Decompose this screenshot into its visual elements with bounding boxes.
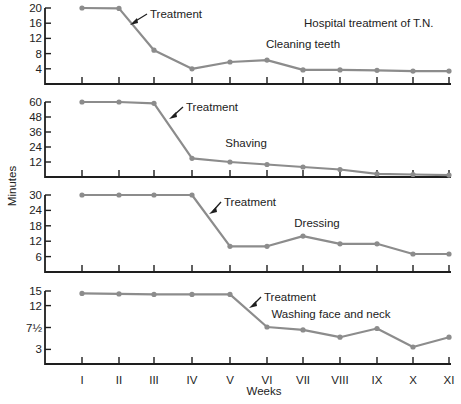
data-point [446,251,451,256]
data-point [374,68,379,73]
x-tick-label: VIII [331,374,348,386]
y-tick-label: 8 [36,48,42,60]
y-tick-label: 36 [29,126,42,138]
data-point [151,101,156,106]
data-point [374,171,379,176]
data-point [337,67,342,72]
treatment-annotation: Treatment [186,101,239,113]
data-point [410,344,415,349]
x-tick-label: II [116,374,122,386]
panel-1: 48121620Cleaning teethTreatmentHospital … [29,2,451,84]
small-multiples-line-chart: 48121620Cleaning teethTreatmentHospital … [0,0,461,404]
y-tick-label: 12 [29,32,42,44]
y-tick-label: 16 [29,17,42,29]
data-point [189,66,194,71]
treatment-annotation: Treatment [224,196,277,208]
data-point [227,159,232,164]
data-point [79,5,84,10]
panel-2: 1224364860ShavingTreatment [29,96,451,178]
arrowhead-icon [249,301,257,308]
x-tick-label: VII [296,374,310,386]
x-tick-label: XI [444,374,455,386]
x-tick-label: III [149,374,159,386]
x-tick-label: X [409,374,417,386]
y-tick-label: 60 [29,96,42,108]
data-point [264,324,269,329]
data-point [227,59,232,64]
data-point [446,69,451,74]
data-point [189,292,194,297]
axis-lines [45,291,451,364]
data-point [337,241,342,246]
y-tick-label: 30 [29,189,42,201]
y-tick-label: 24 [29,141,42,153]
series-label: Dressing [294,217,339,229]
x-tick-label: V [226,374,234,386]
data-point [79,99,84,104]
series-label: Washing face and neck [271,308,390,320]
y-tick-label: 12 [29,235,42,247]
y-tick-label: 12 [29,156,42,168]
y-tick-label: 7½ [26,322,42,334]
data-point [300,164,305,169]
y-tick-label: 3 [36,343,42,355]
data-point [337,335,342,340]
data-point [116,192,121,197]
panel-3: 612182430DressingTreatment [29,189,451,272]
data-point [300,327,305,332]
data-point [410,172,415,177]
y-tick-label: 4 [36,63,43,75]
data-point [410,69,415,74]
x-tick-label: IX [372,374,383,386]
data-point [116,6,121,11]
data-point [227,292,232,297]
series-label: Cleaning teeth [266,38,340,50]
data-point [410,251,415,256]
treatment-annotation: Treatment [264,291,317,303]
data-point [446,173,451,178]
y-tick-label: 24 [29,204,42,216]
y-tick-label: 48 [29,111,42,123]
y-tick-label: 12 [29,300,42,312]
data-point [264,244,269,249]
data-point [374,241,379,246]
data-point [151,292,156,297]
chart-title: Hospital treatment of T.N. [304,17,434,29]
data-point [264,162,269,167]
data-point [189,192,194,197]
y-tick-label: 18 [29,220,42,232]
data-point [300,67,305,72]
data-point [337,167,342,172]
data-point [116,291,121,296]
data-point [79,291,84,296]
series-label: Shaving [225,137,267,149]
data-point [116,99,121,104]
panel-4: 37½1215Washing face and neckTreatment [26,285,452,364]
data-point [151,48,156,53]
data-point [189,156,194,161]
data-point [151,192,156,197]
y-axis-label: Minutes [6,166,18,207]
y-tick-label: 15 [29,285,42,297]
treatment-annotation: Treatment [150,8,203,20]
data-point [79,192,84,197]
arrowhead-icon [209,207,217,214]
x-tick-label: I [80,374,83,386]
arrowhead-icon [169,112,177,119]
data-point [300,234,305,239]
y-tick-label: 20 [29,2,42,14]
x-axis-label: Weeks [247,385,282,397]
data-point [264,58,269,63]
data-point [446,335,451,340]
x-tick-label: IV [187,374,198,386]
y-tick-label: 6 [36,251,42,263]
data-point [227,244,232,249]
data-point [374,326,379,331]
